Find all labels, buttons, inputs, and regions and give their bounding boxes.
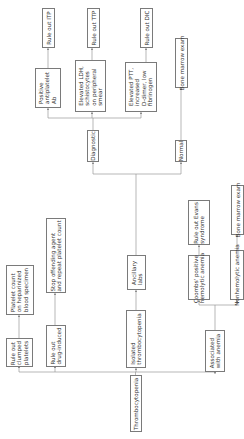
node-coombs-positive: Coombs' positive hemolytic anemia [188,255,210,300]
node-rule-out-evans: Rule out Evans syndrome [188,200,210,245]
node-stop-offending-agent: Stop offending agent and repeat platelet… [46,218,66,293]
flowchart-canvas: Thrombocytopenia Isolated thrombocytopen… [0,0,244,439]
node-rule-out-drug-induced: Rule out drug-induced [46,325,66,367]
node-elevated-ptt: Elevated PTT, increased D-dimer, low fib… [125,62,157,112]
node-isolated-thrombocytopenia: Isolated thrombocytopenia [126,310,146,368]
node-platelet-count-heparinized: Platelet count on heparinized blood spec… [6,265,34,315]
node-diagnostic: Diagnostic [87,130,99,162]
node-rule-out-ttp: Rule out TTP [87,8,100,48]
node-positive-antiplatelet-ab: Positive antiplatelet Ab [35,68,61,108]
node-ancillary-labs: Ancillary labs [127,255,146,290]
node-normal: Normal [175,140,187,162]
node-elevated-ldh: Elevated LDH, schistocytes on peripheral… [75,60,106,112]
node-associated-with-anemia: Associated with anemia [205,330,225,372]
node-rule-out-clumped-platelets: Rule out clumped platelets [6,338,33,367]
node-rule-out-itp: Rule out ITP [42,8,55,48]
node-rule-out-dic: Rule out DIC [140,8,153,48]
node-bone-marrow-exam-upper: Bone marrow exam [175,38,188,88]
node-bone-marrow-exam-lower: Bone marrow exam [231,185,244,235]
node-thrombocytopenia: Thrombocytopenia [130,375,142,432]
node-nonhemolytic-anemia: Nonhemolytic anemia [230,250,244,300]
